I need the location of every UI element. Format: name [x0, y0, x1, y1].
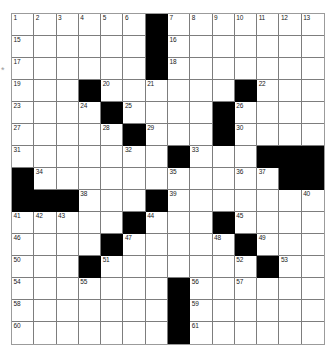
crossword-cell[interactable]: [146, 168, 168, 190]
crossword-cell[interactable]: [57, 124, 79, 146]
crossword-cell[interactable]: [79, 300, 101, 322]
crossword-cell[interactable]: [257, 58, 279, 80]
crossword-cell[interactable]: 12: [279, 14, 301, 36]
crossword-cell[interactable]: [146, 322, 168, 344]
crossword-cell[interactable]: [168, 234, 190, 256]
crossword-cell[interactable]: [257, 300, 279, 322]
crossword-cell[interactable]: [235, 322, 257, 344]
crossword-cell[interactable]: 17: [12, 58, 34, 80]
crossword-cell[interactable]: [57, 102, 79, 124]
crossword-cell[interactable]: 34: [34, 168, 56, 190]
crossword-cell[interactable]: [302, 234, 324, 256]
crossword-cell[interactable]: 33: [190, 146, 212, 168]
crossword-cell[interactable]: [302, 102, 324, 124]
crossword-cell[interactable]: 60: [12, 322, 34, 344]
crossword-cell[interactable]: 50: [12, 256, 34, 278]
crossword-cell[interactable]: [146, 146, 168, 168]
crossword-cell[interactable]: [279, 234, 301, 256]
crossword-cell[interactable]: [213, 168, 235, 190]
crossword-cell[interactable]: [123, 168, 145, 190]
crossword-cell[interactable]: 53: [279, 256, 301, 278]
crossword-cell[interactable]: 32: [123, 146, 145, 168]
crossword-cell[interactable]: 26: [235, 102, 257, 124]
crossword-cell[interactable]: [213, 322, 235, 344]
crossword-cell[interactable]: [190, 58, 212, 80]
crossword-cell[interactable]: [168, 212, 190, 234]
crossword-cell[interactable]: [302, 124, 324, 146]
crossword-cell[interactable]: [279, 58, 301, 80]
crossword-cell[interactable]: 20: [101, 80, 123, 102]
crossword-cell[interactable]: [123, 300, 145, 322]
crossword-cell[interactable]: [213, 300, 235, 322]
crossword-cell[interactable]: 52: [235, 256, 257, 278]
crossword-cell[interactable]: [279, 80, 301, 102]
crossword-cell[interactable]: 36: [235, 168, 257, 190]
crossword-cell[interactable]: [79, 212, 101, 234]
crossword-cell[interactable]: [279, 212, 301, 234]
crossword-cell[interactable]: [302, 322, 324, 344]
crossword-cell[interactable]: 23: [12, 102, 34, 124]
crossword-cell[interactable]: [279, 278, 301, 300]
crossword-cell[interactable]: [101, 58, 123, 80]
crossword-cell[interactable]: 4: [79, 14, 101, 36]
crossword-cell[interactable]: 18: [168, 58, 190, 80]
crossword-cell[interactable]: [257, 102, 279, 124]
crossword-cell[interactable]: 3: [57, 14, 79, 36]
crossword-cell[interactable]: 51: [101, 256, 123, 278]
crossword-cell[interactable]: [279, 300, 301, 322]
crossword-cell[interactable]: [123, 190, 145, 212]
crossword-cell[interactable]: [34, 102, 56, 124]
crossword-cell[interactable]: [79, 168, 101, 190]
crossword-cell[interactable]: [57, 168, 79, 190]
crossword-cell[interactable]: [101, 212, 123, 234]
crossword-cell[interactable]: 7: [168, 14, 190, 36]
crossword-cell[interactable]: 44: [146, 212, 168, 234]
crossword-cell[interactable]: [34, 146, 56, 168]
crossword-cell[interactable]: [302, 256, 324, 278]
crossword-cell[interactable]: 25: [123, 102, 145, 124]
crossword-cell[interactable]: 15: [12, 36, 34, 58]
crossword-cell[interactable]: [279, 36, 301, 58]
crossword-cell[interactable]: 2: [34, 14, 56, 36]
crossword-cell[interactable]: [257, 190, 279, 212]
crossword-cell[interactable]: 54: [12, 278, 34, 300]
crossword-cell[interactable]: 1: [12, 14, 34, 36]
crossword-cell[interactable]: [57, 80, 79, 102]
crossword-cell[interactable]: [146, 256, 168, 278]
crossword-cell[interactable]: 43: [57, 212, 79, 234]
crossword-cell[interactable]: [101, 190, 123, 212]
crossword-cell[interactable]: 58: [12, 300, 34, 322]
crossword-cell[interactable]: [257, 124, 279, 146]
crossword-cell[interactable]: [79, 124, 101, 146]
crossword-cell[interactable]: 9: [213, 14, 235, 36]
crossword-cell[interactable]: [146, 234, 168, 256]
crossword-cell[interactable]: [190, 168, 212, 190]
crossword-cell[interactable]: [168, 256, 190, 278]
crossword-cell[interactable]: 1314: [302, 14, 324, 36]
crossword-cell[interactable]: [235, 300, 257, 322]
crossword-cell[interactable]: [57, 58, 79, 80]
crossword-cell[interactable]: [123, 256, 145, 278]
crossword-cell[interactable]: 61: [190, 322, 212, 344]
crossword-cell[interactable]: [57, 322, 79, 344]
crossword-cell[interactable]: 29: [146, 124, 168, 146]
crossword-cell[interactable]: [79, 322, 101, 344]
crossword-cell[interactable]: [123, 58, 145, 80]
crossword-cell[interactable]: [213, 190, 235, 212]
crossword-cell[interactable]: 5: [101, 14, 123, 36]
crossword-cell[interactable]: 31: [12, 146, 34, 168]
crossword-cell[interactable]: [235, 58, 257, 80]
crossword-cell[interactable]: 6: [123, 14, 145, 36]
crossword-cell[interactable]: [302, 36, 324, 58]
crossword-cell[interactable]: 28: [101, 124, 123, 146]
crossword-cell[interactable]: [190, 124, 212, 146]
crossword-cell[interactable]: [34, 80, 56, 102]
crossword-cell[interactable]: 48: [213, 234, 235, 256]
crossword-cell[interactable]: [190, 80, 212, 102]
crossword-cell[interactable]: [235, 146, 257, 168]
crossword-cell[interactable]: [101, 322, 123, 344]
crossword-cell[interactable]: 37: [257, 168, 279, 190]
crossword-cell[interactable]: [101, 168, 123, 190]
crossword-cell[interactable]: [302, 212, 324, 234]
crossword-cell[interactable]: [213, 80, 235, 102]
